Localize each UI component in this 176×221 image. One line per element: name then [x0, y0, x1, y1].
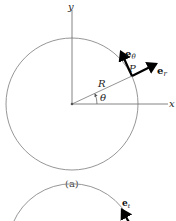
e-theta-label: eθ	[125, 48, 136, 61]
e-t-vector	[122, 210, 130, 221]
y-axis-label: y	[67, 1, 74, 12]
x-axis-label: x	[169, 98, 175, 109]
origin-dot	[71, 103, 74, 106]
angle-label: θ	[100, 92, 106, 103]
diagram-canvas: y x R θ P eθ er (a) et	[0, 0, 176, 221]
circle-path-b	[10, 184, 127, 221]
figure-b: et	[10, 184, 131, 221]
e-r-label: er	[157, 65, 167, 78]
radius-label: R	[97, 78, 106, 89]
angle-arc	[95, 94, 97, 104]
figure-a: y x R θ P eθ er (a)	[6, 1, 175, 189]
e-t-label: et	[122, 198, 131, 209]
